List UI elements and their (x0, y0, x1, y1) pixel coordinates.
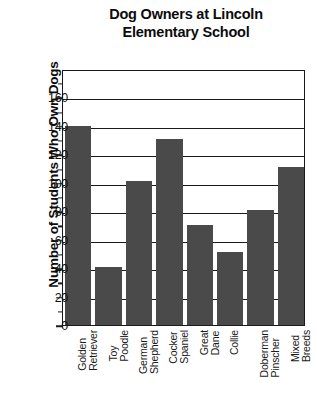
y-axis-title: Number of Students Who Own Dogs (46, 25, 61, 325)
chart-title-line-2: Elementary School (60, 24, 312, 42)
x-label-line-1: Great (198, 330, 210, 355)
y-tick-mark-20 (56, 297, 63, 299)
y-tick-mark-60 (56, 240, 63, 242)
chart-title-line-1: Dog Owners at Lincoln (60, 6, 312, 24)
bar-cocker-spaniel (156, 139, 182, 325)
y-tick-minor-150 (58, 112, 63, 113)
y-tick-minor-10 (58, 311, 63, 312)
x-label-line-1: Mixed (289, 335, 301, 362)
y-tick-minor-170 (58, 84, 63, 85)
bar-collie (217, 252, 243, 325)
x-label-mixed-breeds: MixedBreeds (275, 330, 305, 414)
y-tick-mark-140 (56, 126, 63, 128)
bar-german-shepherd (126, 181, 152, 325)
y-tick-mark-160 (56, 98, 63, 100)
bar-toy-poodle (95, 267, 121, 325)
y-tick-mark-80 (56, 211, 63, 213)
y-tick-mark-120 (56, 155, 63, 157)
x-label-doberman-pinscher: DobermanPinscher (244, 330, 274, 414)
bar-great-dane (187, 225, 213, 325)
y-tick-mark-100 (56, 183, 63, 185)
y-tick-minor-70 (58, 226, 63, 227)
x-label-line-1: German (137, 337, 149, 374)
bar-doberman-pinscher (247, 210, 273, 325)
y-tick-mark-0 (56, 325, 63, 327)
x-label-line-2: Breeds (301, 330, 312, 362)
y-tick-minor-50 (58, 254, 63, 255)
y-tick-minor-30 (58, 283, 63, 284)
bars-group (63, 71, 304, 325)
bar-chart: Dog Owners at Lincoln Elementary School … (0, 0, 317, 417)
y-tick-mark-40 (56, 268, 63, 270)
y-tick-minor-130 (58, 141, 63, 142)
x-label-line-1: Collie (228, 330, 240, 355)
chart-title: Dog Owners at Lincoln Elementary School (60, 6, 312, 41)
x-label-cocker-spaniel: CockerSpaniel (153, 330, 183, 414)
plot-area (62, 70, 305, 326)
y-tick-minor-90 (58, 197, 63, 198)
x-label-toy-poodle: ToyPoodle (92, 330, 122, 414)
bar-mixed-breeds (278, 167, 304, 325)
x-axis-labels: GoldenRetrieverToyPoodleGermanShepherdCo… (62, 330, 305, 416)
x-label-german-shepherd: GermanShepherd (123, 330, 153, 414)
x-label-line-1: Toy (107, 346, 119, 362)
x-label-golden-retriever: GoldenRetriever (62, 330, 92, 414)
bar-golden-retriever (65, 126, 91, 325)
x-label-collie: Collie (214, 330, 244, 414)
x-label-great-dane: GreatDane (184, 330, 214, 414)
y-tick-minor-110 (58, 169, 63, 170)
